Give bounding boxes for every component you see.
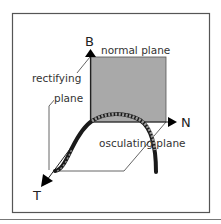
binormal-arrowhead-icon	[85, 49, 96, 57]
normal-label: N	[181, 116, 191, 129]
normal-plane	[91, 57, 166, 122]
normal-arrowhead-icon	[168, 117, 177, 127]
tangent-label: T	[33, 189, 41, 202]
rectifying-plane-outline-lower	[49, 98, 56, 170]
tangent-arrowhead-icon	[41, 174, 53, 187]
osculating-plane-label: osculating plane	[99, 138, 186, 149]
rectifying-plane-label-line2: plane	[54, 93, 83, 104]
diagram-canvas: B N T normal plane rectifying plane oscu…	[0, 0, 221, 224]
rectifying-plane-label-line1: rectifying	[32, 73, 81, 84]
normal-plane-label: normal plane	[101, 45, 170, 56]
binormal-label: B	[85, 35, 94, 48]
